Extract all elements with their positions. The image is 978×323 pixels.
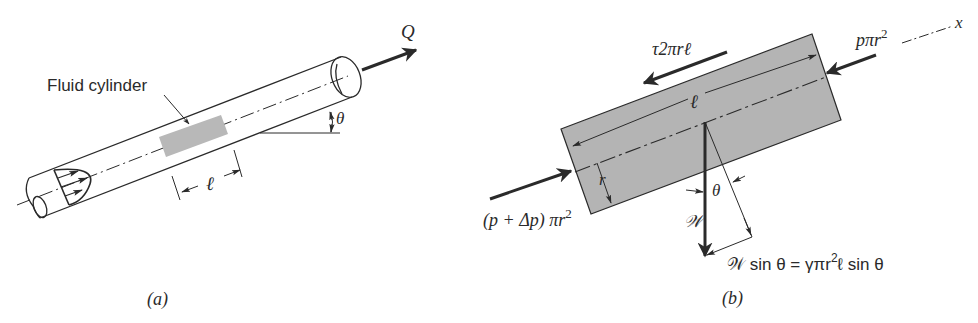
pipe-right-end [325,52,366,101]
flow-arrow-q [362,50,416,70]
weight-normal-tip-arrow [744,218,751,235]
velocity-profile [54,169,91,205]
weight-component-rhs: ℓ sin θ [837,255,884,274]
panel-a: Fluid cylinder ℓ θ Q (a) [17,21,416,310]
velocity-arrow-3 [65,190,82,196]
upstream-pressure-arrow [490,171,571,199]
fluid-cylinder-element [159,115,228,157]
radius-label: r [599,170,606,189]
weight-axial-component-arrow [707,237,752,255]
velocity-arrow-1 [58,171,78,178]
dimension-arrow-left [182,186,198,192]
dimension-extension-left [172,176,180,200]
upstream-pressure-main: (p + Δp) πr [483,210,566,231]
fluid-cylinder-label: Fluid cylinder [47,76,147,95]
weight-component-lhs: 𝒲 sin θ = γπr [727,255,831,274]
angle-arrow-right-b [733,176,745,182]
downstream-pressure-arrow [827,55,876,73]
panel-b: x ℓ r (p + Δp) πr2 pπr2 τ2πrℓ 𝒲 θ [483,13,963,309]
pipe-bottom-edge [40,97,352,218]
dimension-arrow-right [224,170,240,176]
length-label-a: ℓ [206,173,214,194]
dimension-extension-right [234,150,242,177]
caption-a: (a) [147,289,168,310]
weight-label: 𝒲 [684,212,706,231]
downstream-pressure-main: pπr [854,30,882,50]
downstream-pressure-label: pπr2 [854,26,888,50]
profile-parabola [54,169,91,205]
length-label-b: ℓ [690,91,698,112]
shear-force-label: τ2πrℓ [652,39,691,59]
downstream-pressure-exponent: 2 [881,26,888,41]
fluid-cylinder-leader [164,95,189,124]
angle-label-b: θ [712,181,720,200]
x-axis-extension [902,26,953,43]
pipe-left-end [26,178,40,218]
x-axis-label: x [954,13,963,32]
flow-label-q: Q [401,21,415,42]
velocity-arrow-2 [61,178,87,187]
angle-arrow-left-b [686,190,703,192]
caption-b: (b) [722,288,743,309]
weight-component-equation: 𝒲 sin θ = γπr2ℓ sin θ [727,251,884,274]
angle-label-a: θ [336,109,344,128]
upstream-pressure-label: (p + Δp) πr2 [483,206,572,231]
fluid-cylinder-free-body-diagram: Fluid cylinder ℓ θ Q (a) x ℓ [0,0,978,323]
upstream-pressure-exponent: 2 [565,206,572,221]
